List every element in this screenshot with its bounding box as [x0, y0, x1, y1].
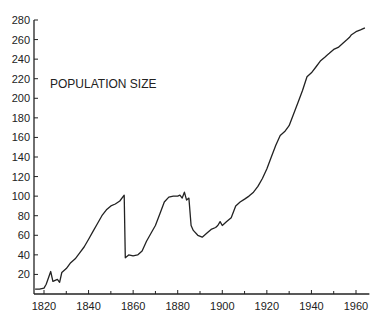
x-tick-label: 1860	[121, 300, 145, 312]
y-tick-label: 80	[18, 210, 30, 222]
chart-annotation: POPULATION SIZE	[50, 77, 156, 91]
x-tick-label: 1920	[255, 300, 279, 312]
y-tick-label: 40	[18, 249, 30, 261]
y-tick-label: 100	[12, 190, 30, 202]
population-line	[35, 28, 365, 289]
y-tick-label: 160	[12, 131, 30, 143]
y-tick-label: 240	[12, 53, 30, 65]
y-tick-label: 120	[12, 171, 30, 183]
y-tick-label: 20	[18, 268, 30, 280]
data-series	[35, 28, 365, 289]
y-tick-label: 220	[12, 73, 30, 85]
population-line-chart: 20406080100120140160180200220240260280 1…	[0, 0, 392, 322]
x-tick-label: 1820	[32, 300, 56, 312]
x-axis-ticks: 18201840186018801900192019401960	[32, 290, 368, 312]
y-tick-label: 180	[12, 112, 30, 124]
x-tick-label: 1880	[165, 300, 189, 312]
x-tick-label: 1940	[299, 300, 323, 312]
y-tick-label: 140	[12, 151, 30, 163]
x-tick-label: 1960	[344, 300, 368, 312]
y-tick-label: 200	[12, 92, 30, 104]
y-tick-label: 280	[12, 14, 30, 26]
x-tick-label: 1900	[210, 300, 234, 312]
x-tick-label: 1840	[76, 300, 100, 312]
axes	[34, 20, 369, 294]
y-tick-label: 260	[12, 34, 30, 46]
y-tick-label: 60	[18, 229, 30, 241]
